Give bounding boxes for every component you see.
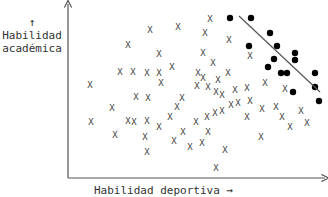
x-axis-label: Habilidad deportiva → xyxy=(94,184,233,197)
data-point-x: X xyxy=(207,14,213,24)
data-point-x: X xyxy=(247,96,253,106)
data-point-x: X xyxy=(187,142,193,152)
data-point-x: X xyxy=(167,112,173,122)
data-point-x: X xyxy=(215,75,221,85)
data-point-x: X xyxy=(287,122,293,132)
data-point-x: X xyxy=(298,106,304,116)
data-point-dot xyxy=(267,30,273,36)
data-point-dot xyxy=(278,70,284,76)
data-point-x: X xyxy=(147,25,153,35)
data-point-x: X xyxy=(279,112,285,122)
data-point-x: X xyxy=(219,106,225,116)
admitted-points xyxy=(227,15,322,104)
data-point-x: X xyxy=(222,145,228,155)
data-point-x: X xyxy=(262,78,268,88)
data-point-x: X xyxy=(145,93,151,103)
data-point-x: X xyxy=(180,127,186,137)
data-point-x: X xyxy=(112,130,118,140)
data-point-x: X xyxy=(169,62,175,72)
data-point-x: X xyxy=(144,147,150,157)
data-point-dot xyxy=(292,50,298,56)
data-point-x: X xyxy=(225,68,231,78)
data-point-x: X xyxy=(125,116,131,126)
data-point-dot xyxy=(271,56,277,62)
data-point-x: X xyxy=(117,67,123,77)
data-point-x: X xyxy=(204,112,210,122)
data-point-x: X xyxy=(174,102,180,112)
data-point-dot xyxy=(265,64,271,70)
data-point-x: X xyxy=(144,116,150,126)
data-point-x: X xyxy=(158,78,164,88)
data-point-x: X xyxy=(142,132,148,142)
data-point-dot xyxy=(290,89,296,95)
data-point-x: X xyxy=(171,136,177,146)
data-point-x: X xyxy=(244,83,250,93)
data-point-x: X xyxy=(244,112,250,122)
data-point-x: X xyxy=(259,104,265,114)
data-point-dot xyxy=(284,70,290,76)
data-point-x: X xyxy=(205,82,211,92)
data-point-x: X xyxy=(200,48,206,58)
data-point-x: X xyxy=(125,40,131,50)
data-point-x: X xyxy=(205,127,211,137)
data-point-dot xyxy=(312,70,318,76)
data-point-x: X xyxy=(194,81,200,91)
rejected-points: XXXXXXXXXXXXXXXXXXXXXXXXXXXXXXXXXXXXXXXX… xyxy=(87,14,310,173)
data-point-x: X xyxy=(232,85,238,95)
data-point-x: X xyxy=(235,98,241,108)
scatter-plot: XXXXXXXXXXXXXXXXXXXXXXXXXXXXXXXXXXXXXXXX… xyxy=(0,0,328,197)
data-point-dot xyxy=(316,98,322,104)
data-point-x: X xyxy=(273,102,279,112)
data-point-x: X xyxy=(156,49,162,59)
data-point-x: X xyxy=(130,67,136,77)
data-point-x: X xyxy=(199,138,205,148)
data-point-x: X xyxy=(212,108,218,118)
data-point-dot xyxy=(248,15,254,21)
data-point-x: X xyxy=(88,117,94,127)
data-point-x: X xyxy=(179,93,185,103)
data-point-x: X xyxy=(109,103,115,113)
data-point-x: X xyxy=(210,58,216,68)
data-point-x: X xyxy=(87,80,93,90)
data-point-x: X xyxy=(193,117,199,127)
data-point-x: X xyxy=(175,22,181,32)
data-point-x: X xyxy=(258,132,264,142)
data-point-x: X xyxy=(282,84,288,94)
data-point-x: X xyxy=(131,117,137,127)
data-point-x: X xyxy=(133,92,139,102)
data-point-x: X xyxy=(213,163,219,173)
data-point-dot xyxy=(227,15,233,21)
data-point-x: X xyxy=(219,90,225,100)
data-point-x: X xyxy=(247,51,253,61)
data-point-x: X xyxy=(156,68,162,78)
data-point-x: X xyxy=(144,68,150,78)
data-point-dot xyxy=(292,57,298,63)
data-point-x: X xyxy=(228,100,234,110)
data-point-x: X xyxy=(304,118,310,128)
data-point-x: X xyxy=(202,28,208,38)
data-point-x: X xyxy=(156,122,162,132)
data-point-dot xyxy=(274,43,280,49)
data-point-x: X xyxy=(226,35,232,45)
data-point-dot xyxy=(246,43,252,49)
